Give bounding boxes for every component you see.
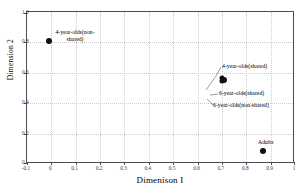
x-tick-label: 0 [49,165,52,171]
annotation-adults: Adults [258,139,273,146]
gridline-horizontal [27,42,293,43]
x-tick-label: 0.8 [242,165,249,171]
x-tick-label: 0.2 [96,165,103,171]
x-tick-label: -0.1 [22,165,31,171]
gridline-horizontal [27,134,293,135]
y-tick-label: 1.0 [22,9,29,15]
annotation-6yo-shared: 6-year-olds(shared) [219,90,264,97]
annotation-4yo-nonshared: 4-year-olds(non- shared) [44,29,106,42]
x-tick-label: 0.6 [193,165,200,171]
gridline-vertical [222,12,223,162]
data-point-6yo-nonshared[interactable] [219,79,224,84]
x-tick-label: 0.5 [169,165,176,171]
y-tick-label: 0.4 [22,99,29,105]
x-tick-label: 1 [293,165,296,171]
y-tick-label: 0.8 [22,38,29,44]
gridline-vertical [173,12,174,162]
data-point-adults[interactable] [260,148,266,154]
x-tick-label: 0.7 [218,165,225,171]
x-tick-label: 0.4 [144,165,151,171]
annotation-4yo-shared: 4-year-olds(shared) [222,63,267,70]
annotation-6yo-nonshared: 6-year-olds(non-shared) [213,102,269,109]
gridline-vertical [149,12,150,162]
y-tick-label: 0.2 [22,130,29,136]
x-tick-label: 0.3 [120,165,127,171]
x-tick-label: 0.9 [266,165,273,171]
gridline-vertical [124,12,125,162]
gridline-horizontal [27,73,293,74]
y-tick-label: 0 [22,159,25,165]
y-tick-label: 0.6 [22,69,29,75]
scatter-plot-figure: 4-year-olds(non- shared) 4-year-olds(sha… [0,0,305,195]
x-axis-title: Dimenison I [26,175,294,186]
gridline-vertical [198,12,199,162]
y-axis-title: Dimension 2 [6,20,15,100]
gridline-vertical [246,12,247,162]
x-tick-label: 0.1 [71,165,78,171]
